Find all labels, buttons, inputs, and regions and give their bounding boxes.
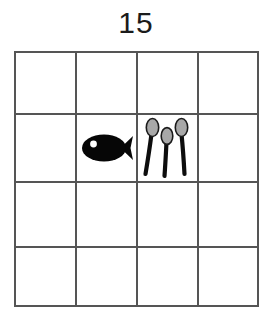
grid-cell-r3c3[interactable] bbox=[137, 182, 198, 247]
fish-icon bbox=[76, 114, 137, 182]
grid-cell-r1c1[interactable] bbox=[15, 52, 76, 114]
spoon-group bbox=[137, 114, 198, 182]
grid-cell-r3c2[interactable] bbox=[76, 182, 137, 247]
grid-cell-r2c3[interactable] bbox=[137, 114, 198, 182]
grid-cell-r1c3[interactable] bbox=[137, 52, 198, 114]
grid-cell-r4c3[interactable] bbox=[137, 247, 198, 306]
spoon-icon bbox=[161, 128, 173, 176]
grid-cell-r3c1[interactable] bbox=[15, 182, 76, 247]
puzzle-figure: 15 bbox=[0, 0, 272, 330]
grid-cell-r2c2[interactable] bbox=[76, 114, 137, 182]
grid-cell-r1c4[interactable] bbox=[198, 52, 258, 114]
grid-cell-r2c4[interactable] bbox=[198, 114, 258, 182]
spoon-icon bbox=[146, 119, 159, 175]
page-title: 15 bbox=[0, 6, 272, 40]
grid-container bbox=[14, 51, 259, 307]
grid-cell-r4c1[interactable] bbox=[15, 247, 76, 306]
spoon-icon bbox=[175, 119, 187, 175]
grid-cell-r1c2[interactable] bbox=[76, 52, 137, 114]
grid-cell-r2c1[interactable] bbox=[15, 114, 76, 182]
grid-cell-r4c2[interactable] bbox=[76, 247, 137, 306]
grid-cell-r4c4[interactable] bbox=[198, 247, 258, 306]
grid-cell-r3c4[interactable] bbox=[198, 182, 258, 247]
